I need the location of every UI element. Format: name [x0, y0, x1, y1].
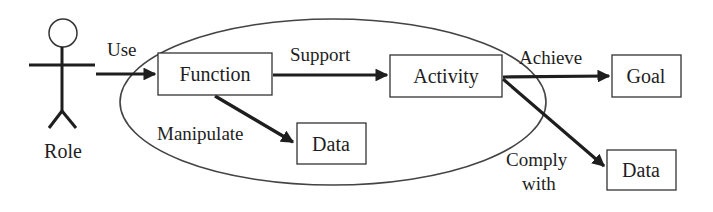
achieve-edge-label: Achieve: [519, 47, 582, 68]
use-edge-label: Use: [107, 39, 137, 60]
data-inner-node-label: Data: [312, 133, 350, 155]
function-node-label: Function: [179, 63, 250, 85]
role-actor-icon: [29, 19, 95, 128]
data-outer-node: Data: [607, 150, 676, 190]
goal-node-label: Goal: [627, 65, 666, 87]
activity-node-label: Activity: [413, 65, 479, 88]
manipulate-edge-label: Manipulate: [157, 123, 244, 144]
comply-with-edge-label-line2: with: [522, 173, 556, 194]
goal-node: Goal: [612, 55, 681, 97]
role-function-activity-diagram: Role Use Support Manipulate Achieve Comp…: [0, 0, 713, 212]
achieve-edge: [503, 76, 609, 77]
function-node: Function: [158, 53, 272, 95]
data-outer-node-label: Data: [622, 159, 660, 181]
activity-node: Activity: [390, 55, 502, 97]
data-inner-node: Data: [297, 123, 366, 164]
support-edge-label: Support: [290, 44, 351, 65]
comply-with-edge-label-line1: Comply: [506, 149, 568, 170]
role-label: Role: [44, 140, 82, 162]
